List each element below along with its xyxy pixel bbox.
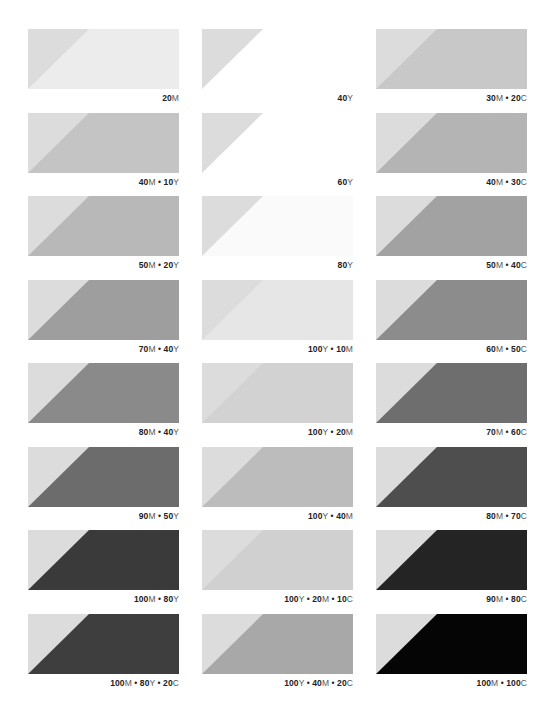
swatch-label: 60M • 50C (486, 344, 527, 354)
percent-value: 20 (337, 678, 347, 688)
swatch-cell: 40Y (202, 29, 353, 107)
percent-value: 20 (163, 678, 173, 688)
percent-value: 40 (511, 260, 521, 270)
percent-value: 100 (308, 511, 322, 521)
percent-value: 50 (139, 260, 149, 270)
ink-letter: M (148, 427, 155, 437)
color-swatch (202, 614, 353, 674)
percent-value: 100 (110, 678, 124, 688)
percent-value: 10 (336, 344, 346, 354)
swatch-cell: 100M • 80Y (28, 530, 179, 608)
label-separator: • (503, 260, 511, 270)
percent-value: 80 (511, 594, 521, 604)
color-swatch-grid: 20M 40Y 30M • 20C 40M • 10Y (0, 0, 553, 727)
light-triangle (376, 113, 527, 173)
swatch-label: 70M • 40Y (139, 344, 179, 354)
color-swatch (376, 113, 527, 173)
color-swatch (202, 447, 353, 507)
percent-value: 30 (511, 177, 521, 187)
color-swatch (376, 447, 527, 507)
color-swatch (28, 530, 179, 590)
label-separator: • (156, 177, 164, 187)
swatch-label: 100M • 80Y • 20C (110, 678, 179, 688)
light-triangle (376, 29, 527, 89)
ink-letter: C (521, 260, 527, 270)
color-swatch (376, 530, 527, 590)
label-separator: • (503, 344, 511, 354)
swatch-cell: 100M • 100C (376, 614, 527, 692)
swatch-cell: 60Y (202, 113, 353, 191)
swatch-label: 100Y • 20M (308, 427, 353, 437)
swatch-label: 20M (162, 93, 179, 103)
percent-value: 30 (486, 93, 496, 103)
ink-letter: C (521, 177, 527, 187)
percent-value: 80 (486, 511, 496, 521)
swatch-label: 100M • 80Y (134, 594, 179, 604)
swatch-cell: 20M (28, 29, 179, 107)
color-swatch (202, 196, 353, 256)
color-swatch (28, 113, 179, 173)
percent-value: 100 (308, 427, 322, 437)
color-swatch (202, 530, 353, 590)
light-triangle (202, 196, 353, 256)
swatch-label: 70M • 60C (486, 427, 527, 437)
ink-letter: C (521, 427, 527, 437)
light-triangle (202, 447, 353, 507)
light-triangle (202, 29, 353, 89)
ink-letter: C (521, 344, 527, 354)
percent-value: 60 (511, 427, 521, 437)
swatch-cell: 100M • 80Y • 20C (28, 614, 179, 692)
percent-value: 90 (486, 594, 496, 604)
percent-value: 80 (139, 427, 149, 437)
light-triangle (376, 196, 527, 256)
percent-value: 50 (511, 344, 521, 354)
label-separator: • (329, 594, 337, 604)
light-triangle (28, 29, 179, 89)
ink-letter: C (521, 678, 527, 688)
percent-value: 40 (139, 177, 149, 187)
label-separator: • (156, 594, 164, 604)
ink-letter: C (347, 594, 353, 604)
label-separator: • (328, 511, 336, 521)
ink-letter: C (347, 678, 353, 688)
ink-letter: M (148, 260, 155, 270)
ink-letter: M (148, 511, 155, 521)
swatch-label: 80Y (338, 260, 353, 270)
percent-value: 100 (284, 594, 298, 604)
percent-value: 50 (486, 260, 496, 270)
ink-letter: Y (347, 177, 353, 187)
swatch-cell: 40M • 30C (376, 113, 527, 191)
label-separator: • (155, 678, 163, 688)
light-triangle (28, 614, 179, 674)
percent-value: 40 (338, 93, 348, 103)
percent-value: 80 (164, 594, 174, 604)
light-triangle (202, 113, 353, 173)
label-separator: • (503, 177, 511, 187)
light-triangle (28, 280, 179, 340)
ink-letter: M (172, 93, 179, 103)
percent-value: 50 (164, 511, 174, 521)
light-triangle (28, 363, 179, 423)
color-swatch (28, 614, 179, 674)
swatch-cell: 90M • 80C (376, 530, 527, 608)
percent-value: 70 (486, 427, 496, 437)
ink-letter: Y (173, 260, 179, 270)
swatch-label: 100Y • 40M • 20C (284, 678, 353, 688)
ink-letter: Y (173, 511, 179, 521)
percent-value: 90 (139, 511, 149, 521)
swatch-label: 40M • 10Y (139, 177, 179, 187)
label-separator: • (503, 511, 511, 521)
swatch-label: 100Y • 20M • 10C (284, 594, 353, 604)
swatch-cell: 70M • 60C (376, 363, 527, 441)
swatch-label: 50M • 40C (486, 260, 527, 270)
light-triangle (202, 530, 353, 590)
label-separator: • (503, 427, 511, 437)
swatch-label: 100M • 100C (477, 678, 527, 688)
swatch-cell: 100Y • 40M (202, 447, 353, 525)
percent-value: 20 (511, 93, 521, 103)
ink-letter: Y (173, 427, 179, 437)
swatch-cell: 50M • 40C (376, 196, 527, 274)
light-triangle (28, 447, 179, 507)
color-swatch (28, 363, 179, 423)
light-triangle (202, 614, 353, 674)
